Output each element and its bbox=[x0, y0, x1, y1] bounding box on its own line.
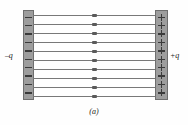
right-plate-charge-label: +q bbox=[170, 51, 179, 60]
charge-symbol-plus bbox=[158, 56, 165, 63]
field-line-arrow-icon bbox=[92, 50, 97, 53]
charge-symbol-plus bbox=[158, 30, 165, 37]
capacitor-figure: –q +q (a) bbox=[0, 0, 188, 125]
field-line-arrow-icon bbox=[92, 14, 97, 17]
field-line-arrow-icon bbox=[92, 95, 97, 98]
charge-symbol-minus bbox=[25, 81, 32, 88]
field-line-arrow-icon bbox=[92, 23, 97, 26]
left-plate-charge-label: –q bbox=[5, 51, 13, 60]
electric-field-lines bbox=[33, 10, 156, 100]
charge-symbol-minus bbox=[25, 89, 32, 96]
charge-symbol-plus bbox=[158, 89, 165, 96]
charge-symbol-minus bbox=[25, 22, 32, 29]
right-plate-positive bbox=[155, 10, 168, 100]
charge-symbol-plus bbox=[158, 14, 165, 21]
charge-symbol-minus bbox=[25, 72, 32, 79]
charge-symbol-plus bbox=[158, 72, 165, 79]
charge-symbol-minus bbox=[25, 14, 32, 21]
field-line-arrow-icon bbox=[92, 59, 97, 62]
charge-symbol-minus bbox=[25, 47, 32, 54]
charge-symbol-minus bbox=[25, 64, 32, 71]
charge-symbol-minus bbox=[25, 30, 32, 37]
charge-symbol-plus bbox=[158, 22, 165, 29]
field-line-arrow-icon bbox=[92, 32, 97, 35]
charge-symbol-minus bbox=[25, 39, 32, 46]
charge-symbol-plus bbox=[158, 64, 165, 71]
charge-symbol-plus bbox=[158, 39, 165, 46]
field-line-arrow-icon bbox=[92, 41, 97, 44]
field-line-arrow-icon bbox=[92, 86, 97, 89]
figure-caption: (a) bbox=[0, 107, 188, 116]
field-line-arrow-icon bbox=[92, 68, 97, 71]
charge-symbol-plus bbox=[158, 81, 165, 88]
field-line-arrow-icon bbox=[92, 77, 97, 80]
charge-symbol-minus bbox=[25, 56, 32, 63]
charge-symbol-plus bbox=[158, 47, 165, 54]
